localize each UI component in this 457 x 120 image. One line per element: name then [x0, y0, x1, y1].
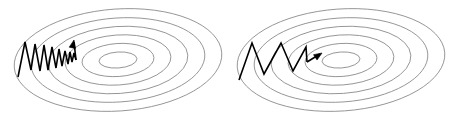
figure-root — [0, 0, 457, 120]
contour-figure-svg — [0, 0, 457, 120]
